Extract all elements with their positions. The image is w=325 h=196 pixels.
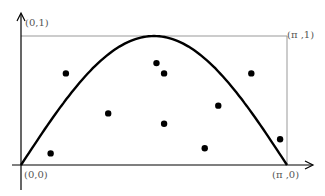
data-point	[161, 70, 167, 76]
data-point	[105, 110, 111, 116]
data-point	[47, 150, 53, 156]
label-bottom-right: (π ,0)	[272, 169, 299, 180]
sine-curve	[21, 36, 287, 165]
data-point	[277, 136, 283, 142]
data-point	[202, 145, 208, 151]
diagram-canvas	[0, 0, 325, 196]
data-point	[153, 60, 159, 66]
label-top-right: (π ,1)	[287, 29, 314, 40]
data-point	[63, 70, 69, 76]
data-point	[161, 121, 167, 127]
label-bottom-left: (0,0)	[24, 169, 48, 180]
data-point	[215, 102, 221, 108]
label-top-left: (0,1)	[25, 17, 49, 28]
data-point	[248, 70, 254, 76]
